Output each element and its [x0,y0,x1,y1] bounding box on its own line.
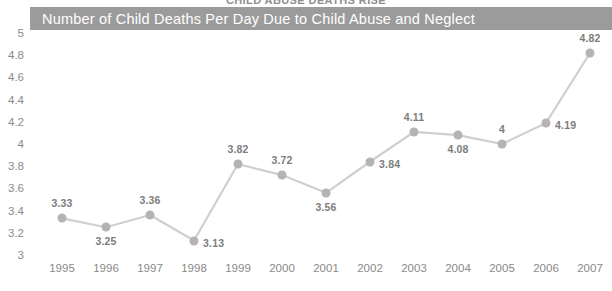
y-axis-tick: 4.6 [8,71,24,83]
y-axis: 54.84.64.44.243.83.63.43.23 [0,33,28,255]
plot-area: 3.333.253.363.133.823.723.563.844.114.08… [30,33,612,255]
x-axis: 1995199619971998199920002001200220032004… [30,262,612,280]
y-axis-tick: 3.8 [8,160,24,172]
data-point-marker [58,214,67,223]
x-axis-tick: 2007 [577,262,603,274]
data-point-marker [454,131,463,140]
data-point-label: 4.82 [579,32,600,44]
data-point-marker [410,127,419,136]
data-point-label: 4.11 [404,111,425,123]
data-point-label: 3.33 [51,197,72,209]
y-axis-tick: 4 [18,138,24,150]
data-point-marker [190,236,199,245]
data-point-marker [322,188,331,197]
x-axis-tick: 2004 [445,262,471,274]
y-axis-tick: 3.6 [8,182,24,194]
chart-container: CHILD ABUSE DEATHS RISE Number of Child … [0,0,612,291]
data-point-label: 3.84 [379,158,400,170]
x-axis-tick: 2000 [269,262,295,274]
data-point-label: 4 [499,123,505,135]
x-axis-tick: 2006 [533,262,559,274]
y-axis-tick: 5 [18,27,24,39]
x-axis-tick: 1996 [93,262,119,274]
data-point-marker [146,211,155,220]
x-axis-tick: 1997 [137,262,163,274]
data-point-marker [542,118,551,127]
data-point-label: 3.36 [139,194,160,206]
x-axis-tick: 1999 [225,262,251,274]
data-point-label: 3.56 [315,201,336,213]
data-point-label: 3.72 [271,154,292,166]
y-axis-tick: 4.2 [8,116,24,128]
y-axis-tick: 3.2 [8,227,24,239]
y-axis-tick: 3.4 [8,205,24,217]
data-point-label: 3.13 [203,237,224,249]
y-axis-tick: 3 [18,249,24,261]
data-point-marker [498,140,507,149]
series-line-chart [30,33,612,255]
x-axis-tick: 2003 [401,262,427,274]
x-axis-tick: 1998 [181,262,207,274]
data-point-marker [234,159,243,168]
chart-supertitle: CHILD ABUSE DEATHS RISE [0,0,612,6]
y-axis-tick: 4.4 [8,94,24,106]
data-point-marker [278,171,287,180]
x-axis-tick: 1995 [49,262,75,274]
data-point-label: 4.19 [555,119,576,131]
chart-title: Number of Child Deaths Per Day Due to Ch… [30,11,475,27]
data-point-label: 3.25 [95,235,116,247]
x-axis-tick: 2001 [313,262,339,274]
data-point-marker [586,48,595,57]
y-axis-tick: 4.8 [8,49,24,61]
data-point-label: 4.08 [447,143,468,155]
data-point-marker [366,157,375,166]
data-point-marker [102,223,111,232]
data-point-label: 3.82 [227,143,248,155]
x-axis-tick: 2005 [489,262,515,274]
chart-title-bar: Number of Child Deaths Per Day Due to Ch… [30,7,612,30]
x-axis-tick: 2002 [357,262,383,274]
